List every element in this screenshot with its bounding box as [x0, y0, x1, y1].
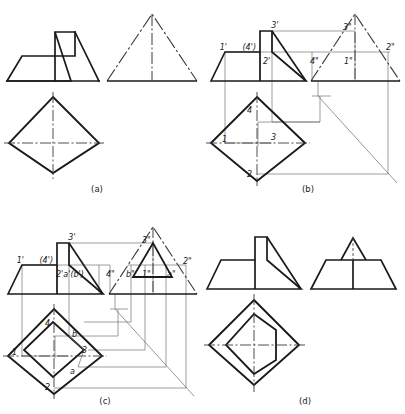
panel-c-label-a-top: a — [70, 367, 75, 376]
panel-b-label-4-top: 4 — [247, 106, 252, 115]
panel-c-label-3-side: 3" — [142, 236, 151, 245]
panel-c-label-4-top: 4 — [45, 319, 50, 328]
panel-b-label-2-side: 2" — [386, 43, 395, 52]
panel-c-label-1-top: 1 — [12, 348, 17, 357]
panel-b-label-3-top: 3 — [271, 133, 276, 142]
projection-drawing-svg: (a) — [0, 0, 405, 414]
panel-b-label-2-front: 2' — [263, 57, 270, 66]
panel-d-caption: (d) — [299, 396, 311, 406]
panel-c-caption: (c) — [99, 396, 110, 406]
panel-c-label-4-front: (4') — [39, 256, 53, 265]
panel-c-label-4-side: 4" — [106, 270, 115, 279]
technical-drawing-figure: (a) — [0, 0, 405, 414]
panel-b-label-1-front: 1' — [220, 43, 227, 52]
panel-b-label-4-front: (4') — [242, 43, 256, 52]
panel-c-label-b-top: b — [72, 330, 77, 339]
panel-b-caption: (b) — [302, 184, 314, 194]
panel-b-label-3-front: 3' — [271, 21, 278, 30]
panel-c-label-2-top: 2 — [45, 383, 50, 392]
panel-b-label-2-top: 2 — [247, 170, 252, 179]
panel-b-label-3-side: 3" — [343, 23, 352, 32]
panel-b-label-1-top: 1 — [222, 135, 227, 144]
panel-a-caption: (a) — [91, 184, 103, 194]
panel-c-label-1-side: 1" — [142, 270, 151, 279]
panel-c-label-2ab-front: 2'a'(b') — [56, 270, 84, 279]
panel-b-label-4-side: 4" — [310, 57, 319, 66]
panel-c-label-a-side: a" — [167, 270, 176, 279]
panel-c-label-3-top: 3 — [82, 346, 87, 355]
panel-c-label-b-side: b" — [126, 270, 135, 279]
panel-c-label-3-front: 3' — [68, 233, 75, 242]
panel-b-label-1-side: 1" — [344, 57, 353, 66]
panel-c-label-1-front: 1' — [17, 256, 24, 265]
panel-c-label-2-side: 2" — [183, 257, 192, 266]
